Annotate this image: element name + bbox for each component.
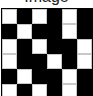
grid-cell-r3-c2[interactable] [17,39,32,54]
grid-cell-r1-c1[interactable] [2,9,17,24]
grid-cell-r5-c5[interactable] [62,69,77,84]
grid-cell-r6-c4[interactable] [47,84,62,96]
grid-cell-r2-c6[interactable] [77,24,92,39]
grid-cell-r4-c3[interactable] [32,54,47,69]
grid-cell-r2-c2[interactable] [17,24,32,39]
grid-cell-r5-c2[interactable] [17,69,32,84]
grid-cell-r1-c3[interactable] [32,9,47,24]
pattern-grid [1,8,93,96]
grid-cell-r6-c6[interactable] [77,84,92,96]
grid-cell-r6-c5[interactable] [62,84,77,96]
grid-cell-r4-c1[interactable] [2,54,17,69]
grid-cell-r6-c2[interactable] [17,84,32,96]
grid-cell-r5-c6[interactable] [77,69,92,84]
grid-cell-r3-c3[interactable] [32,39,47,54]
grid-cell-r2-c3[interactable] [32,24,47,39]
grid-cell-r1-c4[interactable] [47,9,62,24]
grid-cell-r4-c2[interactable] [17,54,32,69]
grid-cell-r5-c4[interactable] [47,69,62,84]
grid-cell-r3-c6[interactable] [77,39,92,54]
grid-cell-r2-c1[interactable] [2,24,17,39]
grid-cell-r3-c4[interactable] [47,39,62,54]
grid-cell-r4-c6[interactable] [77,54,92,69]
board-caption: Image [0,0,93,6]
grid-cell-r4-c4[interactable] [47,54,62,69]
grid-cell-r6-c3[interactable] [32,84,47,96]
grid-cell-r2-c5[interactable] [62,24,77,39]
grid-cell-r5-c1[interactable] [2,69,17,84]
grid-cell-r3-c5[interactable] [62,39,77,54]
grid-cell-r1-c2[interactable] [17,9,32,24]
grid-cell-r6-c1[interactable] [2,84,17,96]
grid-cell-r5-c3[interactable] [32,69,47,84]
grid-cell-r4-c5[interactable] [62,54,77,69]
grid-cell-r1-c6[interactable] [77,9,92,24]
grid-cell-r1-c5[interactable] [62,9,77,24]
grid-cell-r2-c4[interactable] [47,24,62,39]
grid-cell-r3-c1[interactable] [2,39,17,54]
